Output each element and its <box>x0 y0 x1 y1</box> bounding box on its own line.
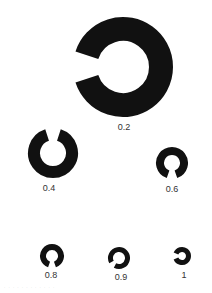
landolt-c-ring-0.6 <box>155 146 189 180</box>
footer-faint-text: · · · · · · · · · · · · <box>4 285 55 290</box>
landolt-c-ring-0.8 <box>39 243 65 269</box>
acuity-label-1: 1 <box>181 270 186 280</box>
landolt-c-ring-0.4 <box>27 127 79 179</box>
acuity-label-0.6: 0.6 <box>166 184 179 194</box>
acuity-label-0.8: 0.8 <box>45 270 58 280</box>
landolt-c-ring-0.9 <box>107 246 131 270</box>
landolt-c-ring-1 <box>172 246 192 266</box>
acuity-label-0.9: 0.9 <box>115 272 128 282</box>
acuity-label-0.4: 0.4 <box>43 183 56 193</box>
landolt-c-ring-0.2 <box>72 16 174 118</box>
acuity-label-0.2: 0.2 <box>118 122 131 132</box>
